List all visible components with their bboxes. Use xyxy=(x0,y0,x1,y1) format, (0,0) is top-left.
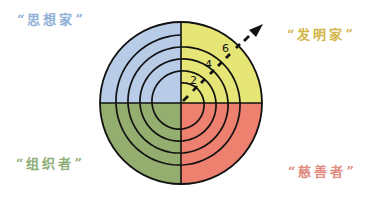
tick-label-6: 6 xyxy=(222,42,229,55)
arrowhead-icon xyxy=(249,24,263,37)
label-philanthropist: “慈善者” xyxy=(288,161,357,180)
label-thinker: “思想家” xyxy=(17,9,86,28)
label-inventor: “发明家” xyxy=(287,24,356,43)
label-organizer: “组织者” xyxy=(16,153,85,172)
quadrant-bottom-left xyxy=(100,103,181,184)
tick-label-4: 4 xyxy=(205,58,212,71)
tick-label-2: 2 xyxy=(190,74,197,87)
